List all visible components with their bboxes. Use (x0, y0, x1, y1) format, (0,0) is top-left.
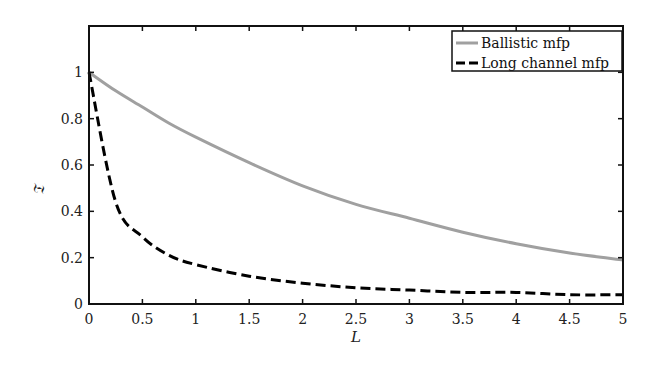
plot-area (89, 72, 623, 295)
y-tick-label: 1 (74, 64, 83, 80)
x-tick-label: 2.5 (345, 311, 367, 327)
legend: Ballistic mfp Long channel mfp (452, 31, 622, 71)
legend-ballistic-label: Ballistic mfp (481, 35, 570, 51)
x-tick-label: 5 (619, 311, 628, 327)
ballistic-mfp-line (89, 72, 623, 260)
y-tick-label: 0.2 (61, 250, 83, 266)
x-tick-label: 0 (85, 311, 94, 327)
long-channel-mfp-line (89, 72, 623, 295)
x-axis-label: L (350, 328, 361, 346)
x-tick-label: 4 (512, 311, 521, 327)
x-tick-label: 3 (405, 311, 414, 327)
chart: 00.511.522.533.544.5500.20.40.60.81 L 𝔗 … (0, 0, 658, 367)
y-tick-label: 0.6 (61, 157, 83, 173)
x-tick-label: 4.5 (558, 311, 580, 327)
y-axis-label: 𝔗 (30, 182, 48, 195)
x-tick-label: 1.5 (238, 311, 260, 327)
x-tick-label: 0.5 (131, 311, 153, 327)
y-tick-label: 0.4 (61, 203, 83, 219)
x-tick-label: 3.5 (452, 311, 474, 327)
x-tick-label: 2 (298, 311, 307, 327)
x-tick-label: 1 (191, 311, 200, 327)
y-tick-label: 0 (74, 296, 83, 312)
legend-longchannel-label: Long channel mfp (481, 55, 609, 71)
y-tick-label: 0.8 (61, 111, 83, 127)
